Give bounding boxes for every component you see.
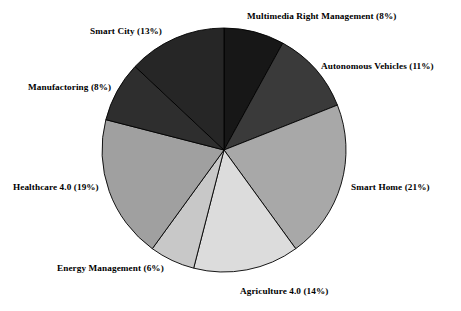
pie-label-manufactoring: Manufactoring (8%) bbox=[28, 83, 111, 92]
pie-label-smart-home: Smart Home (21%) bbox=[351, 183, 430, 192]
pie-chart-figure: Multimedia Right Management (8%) Autonom… bbox=[0, 0, 461, 311]
pie-label-multimedia-right-management: Multimedia Right Management (8%) bbox=[247, 12, 396, 21]
pie-slice-group bbox=[102, 28, 346, 272]
pie-label-autonomous-vehicles: Autonomous Vehicles (11%) bbox=[321, 62, 434, 71]
pie-label-agriculture-4-0: Agriculture 4.0 (14%) bbox=[240, 287, 328, 296]
pie-label-smart-city: Smart City (13%) bbox=[90, 27, 162, 36]
pie-label-healthcare-4-0: Healthcare 4.0 (19%) bbox=[13, 183, 99, 192]
pie-label-energy-management: Energy Management (6%) bbox=[57, 264, 164, 273]
